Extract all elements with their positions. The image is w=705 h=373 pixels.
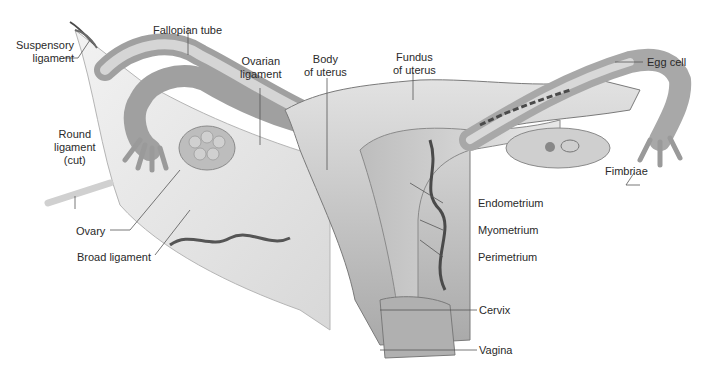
label-broad-ligament: Broad ligament <box>77 251 151 264</box>
right-fimbriae <box>640 138 680 165</box>
label-body-of-uterus: Body of uterus <box>304 53 347 79</box>
label-fimbriae: Fimbriae <box>605 165 648 178</box>
uterus-body <box>285 80 640 345</box>
label-endometrium: Endometrium <box>478 197 543 210</box>
label-fallopian-tube: Fallopian tube <box>153 24 222 37</box>
uterus-diagram <box>0 0 705 373</box>
label-myometrium: Myometrium <box>478 224 539 237</box>
label-fundus-of-uterus: Fundus of uterus <box>393 51 436 77</box>
cervix-vagina <box>380 297 455 358</box>
label-round-ligament: Round ligament (cut) <box>54 128 96 167</box>
label-cervix: Cervix <box>479 304 510 317</box>
label-suspensory-ligament: Suspensory ligament <box>16 39 74 65</box>
label-vagina: Vagina <box>479 344 512 357</box>
label-ovarian-ligament: Ovarian ligament <box>240 55 282 81</box>
label-egg-cell: Egg cell <box>647 56 686 69</box>
label-perimetrium: Perimetrium <box>478 251 537 264</box>
right-ovary <box>506 128 610 168</box>
round-ligament-shape <box>48 183 110 203</box>
label-ovary: Ovary <box>76 225 105 238</box>
